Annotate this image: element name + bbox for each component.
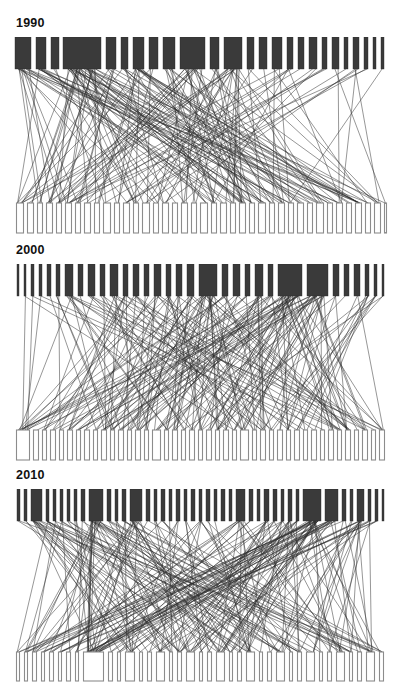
bottom-node[interactable] xyxy=(51,430,56,460)
bottom-node[interactable] xyxy=(328,203,333,233)
bottom-node[interactable] xyxy=(320,652,323,681)
bottom-node[interactable] xyxy=(124,203,130,233)
bottom-node[interactable] xyxy=(346,430,351,460)
bottom-node[interactable] xyxy=(38,203,43,233)
top-node[interactable] xyxy=(364,37,368,69)
bottom-node[interactable] xyxy=(224,430,229,460)
top-node[interactable] xyxy=(224,37,242,69)
bottom-node[interactable] xyxy=(17,203,24,233)
top-node[interactable] xyxy=(24,489,27,521)
bottom-node[interactable] xyxy=(190,430,195,460)
bottom-node[interactable] xyxy=(289,203,294,233)
top-node[interactable] xyxy=(281,489,284,521)
top-node[interactable] xyxy=(255,264,263,296)
top-node[interactable] xyxy=(154,489,157,521)
top-node[interactable] xyxy=(146,489,150,521)
top-node[interactable] xyxy=(245,264,250,296)
top-node[interactable] xyxy=(47,264,51,296)
bottom-node[interactable] xyxy=(355,430,359,460)
bottom-node[interactable] xyxy=(163,203,169,233)
top-node[interactable] xyxy=(236,489,245,521)
bottom-node[interactable] xyxy=(170,652,173,681)
top-node[interactable] xyxy=(100,264,105,296)
bottom-node[interactable] xyxy=(173,203,178,233)
top-node[interactable] xyxy=(373,37,376,69)
top-node[interactable] xyxy=(303,489,321,521)
top-node[interactable] xyxy=(110,264,118,296)
top-node[interactable] xyxy=(36,37,46,69)
top-node[interactable] xyxy=(63,37,101,69)
top-node[interactable] xyxy=(247,37,254,69)
top-node[interactable] xyxy=(56,264,60,296)
bottom-node[interactable] xyxy=(337,203,343,233)
bottom-node[interactable] xyxy=(47,203,53,233)
top-node[interactable] xyxy=(344,37,348,69)
top-node[interactable] xyxy=(166,264,171,296)
bottom-node[interactable] xyxy=(250,203,255,233)
bottom-node[interactable] xyxy=(118,652,121,681)
top-node[interactable] xyxy=(374,264,377,296)
bottom-node[interactable] xyxy=(212,203,217,233)
top-node[interactable] xyxy=(229,489,232,521)
bottom-node[interactable] xyxy=(321,430,325,460)
bottom-node[interactable] xyxy=(136,430,141,460)
bottom-node[interactable] xyxy=(43,430,47,460)
top-node[interactable] xyxy=(199,264,217,296)
top-node[interactable] xyxy=(89,489,103,521)
bottom-node[interactable] xyxy=(201,203,208,233)
top-node[interactable] xyxy=(296,489,299,521)
bottom-node[interactable] xyxy=(157,652,165,681)
top-node[interactable] xyxy=(133,37,144,69)
bottom-node[interactable] xyxy=(290,652,293,681)
top-node[interactable] xyxy=(221,489,225,521)
top-node[interactable] xyxy=(288,489,292,521)
bottom-node[interactable] xyxy=(304,430,308,460)
top-node[interactable] xyxy=(287,37,293,69)
top-node[interactable] xyxy=(176,489,180,521)
top-node[interactable] xyxy=(278,264,302,296)
top-node[interactable] xyxy=(122,489,126,521)
bottom-node[interactable] xyxy=(261,430,266,460)
bottom-node[interactable] xyxy=(241,430,249,460)
top-node[interactable] xyxy=(51,37,59,69)
top-node[interactable] xyxy=(169,489,172,521)
top-node[interactable] xyxy=(210,37,219,69)
top-node[interactable] xyxy=(381,37,384,69)
bottom-node[interactable] xyxy=(277,652,285,681)
bottom-node[interactable] xyxy=(67,652,71,681)
top-node[interactable] xyxy=(257,489,260,521)
bottom-node[interactable] xyxy=(17,430,30,460)
bottom-node[interactable] xyxy=(119,430,124,460)
bottom-node[interactable] xyxy=(338,430,342,460)
bottom-node[interactable] xyxy=(366,203,371,233)
top-node[interactable] xyxy=(325,489,338,521)
bottom-node[interactable] xyxy=(34,430,39,460)
top-node[interactable] xyxy=(233,264,240,296)
top-node[interactable] xyxy=(107,489,111,521)
bottom-node[interactable] xyxy=(278,430,283,460)
bottom-node[interactable] xyxy=(200,652,203,681)
bottom-node[interactable] xyxy=(173,430,178,460)
bottom-node[interactable] xyxy=(259,203,266,233)
top-node[interactable] xyxy=(31,489,42,521)
top-node[interactable] xyxy=(149,37,158,69)
bottom-node[interactable] xyxy=(207,430,212,460)
bottom-node[interactable] xyxy=(145,430,149,460)
bottom-node[interactable] xyxy=(231,203,236,233)
top-node[interactable] xyxy=(130,489,142,521)
top-node[interactable] xyxy=(382,264,384,296)
top-node[interactable] xyxy=(81,489,85,521)
bottom-node[interactable] xyxy=(372,430,376,460)
top-node[interactable] xyxy=(268,264,273,296)
bottom-node[interactable] xyxy=(165,430,169,460)
top-node[interactable] xyxy=(121,37,128,69)
bottom-node[interactable] xyxy=(140,652,143,681)
top-node[interactable] xyxy=(53,489,56,521)
bottom-node[interactable] xyxy=(42,652,45,681)
bottom-node[interactable] xyxy=(298,652,302,681)
top-node[interactable] xyxy=(78,264,83,296)
bottom-node[interactable] xyxy=(260,652,263,681)
top-node[interactable] xyxy=(106,37,116,69)
bottom-node[interactable] xyxy=(238,652,242,681)
top-node[interactable] xyxy=(259,37,267,69)
